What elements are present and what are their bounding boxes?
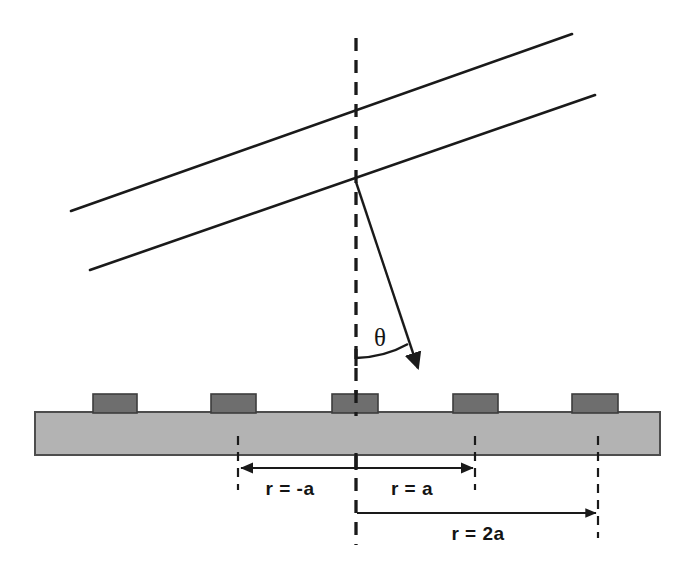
substrate-slab [35,412,660,455]
figure-canvas: θ r = -a r = a [0,0,691,577]
incident-ray-upper [71,34,572,211]
grating-line [572,394,618,413]
grating-line [453,394,498,413]
label-r-a: r = a [391,478,433,499]
diffraction-grating-figure: θ r = -a r = a [0,0,691,577]
theta-label: θ [374,324,386,351]
incidence-angle-group: θ [356,324,408,366]
incident-ray-lower [90,95,595,270]
incident-beam-group [71,34,595,270]
label-r-2a: r = 2a [451,523,504,544]
label-r-minus-a: r = -a [266,478,315,499]
grating-line [211,394,256,413]
wave-vector-arrow [356,182,418,368]
grating-line [93,394,137,413]
